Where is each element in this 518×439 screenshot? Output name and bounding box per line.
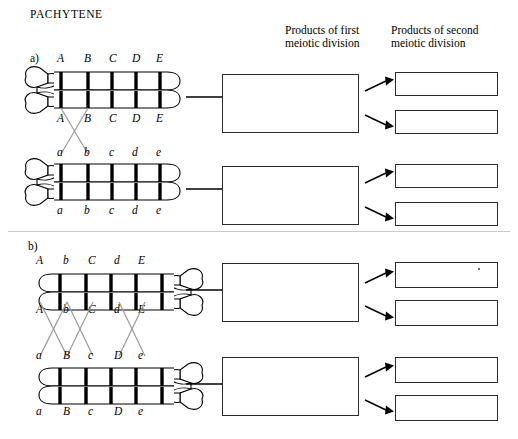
column-header-second-division: Products of second meiotic division	[391, 24, 479, 50]
gene-label: c	[109, 146, 114, 158]
arrow-b-second-4	[365, 397, 395, 415]
second-division-box-a-1[interactable]	[395, 72, 498, 96]
column-header-first-division: Products of first meiotic division	[285, 24, 359, 50]
first-division-box-b-1[interactable]	[222, 263, 359, 322]
section-divider	[8, 231, 510, 232]
ink-dot-artifact	[478, 268, 480, 270]
gene-label: c	[88, 405, 93, 417]
gene-label: c	[109, 204, 114, 216]
gene-label: d	[132, 204, 138, 216]
gene-label: b	[84, 146, 90, 158]
gene-label: a	[36, 349, 42, 361]
gene-label-row-a3: a b c d e	[24, 148, 204, 162]
diagram-canvas: PACHYTENE Products of first meiotic divi…	[0, 0, 518, 439]
first-division-box-a-1[interactable]	[222, 74, 359, 133]
arrow-b-second-2	[365, 303, 395, 321]
first-division-box-b-2[interactable]	[222, 357, 359, 416]
gene-label: D	[132, 52, 140, 64]
arrow-a-second-1	[365, 76, 395, 94]
gene-label: a	[57, 146, 63, 158]
gene-label: c	[88, 349, 93, 361]
second-division-box-a-3[interactable]	[395, 164, 498, 188]
second-division-box-b-1[interactable]	[395, 262, 498, 288]
gene-label: B	[63, 349, 70, 361]
gene-label: E	[138, 254, 145, 266]
arrow-a-second-4	[365, 204, 395, 222]
second-division-box-b-4[interactable]	[395, 395, 498, 421]
arrow-a-second-2	[365, 112, 395, 130]
gene-label-row-a4: a b c d e	[24, 204, 204, 218]
gene-label: a	[57, 204, 63, 216]
second-division-box-b-3[interactable]	[395, 357, 498, 383]
gene-label: C	[109, 52, 117, 64]
arrow-a-second-3	[365, 168, 395, 186]
gene-label-row-b4: a B c D e	[24, 405, 204, 419]
gene-label: D	[114, 405, 122, 417]
gene-label: D	[114, 349, 122, 361]
second-division-box-b-2[interactable]	[395, 300, 498, 326]
gene-label-row-a1: A B C D E	[24, 62, 204, 76]
gene-label-row-b3: a B c D e	[24, 349, 204, 363]
gene-label: e	[156, 146, 161, 158]
gene-label: B	[63, 405, 70, 417]
arrow-b-second-3	[365, 362, 395, 380]
gene-label: d	[114, 254, 120, 266]
second-division-box-a-2[interactable]	[395, 110, 498, 134]
gene-label: E	[156, 52, 163, 64]
gene-label: A	[57, 52, 64, 64]
arrow-b-second-1	[365, 268, 395, 286]
gene-label: d	[132, 146, 138, 158]
first-division-box-a-2[interactable]	[222, 166, 359, 225]
gene-label: A	[36, 254, 43, 266]
part-label-b: b)	[28, 240, 38, 252]
gene-label: e	[156, 204, 161, 216]
gene-label: B	[84, 52, 91, 64]
gene-label: C	[88, 254, 96, 266]
gene-label-row-b1: A b C d E	[24, 254, 204, 268]
gene-label: b	[63, 254, 69, 266]
gene-label: e	[138, 349, 143, 361]
second-division-box-a-4[interactable]	[395, 202, 498, 226]
gene-label: e	[138, 405, 143, 417]
gene-label: b	[84, 204, 90, 216]
gene-label: a	[36, 405, 42, 417]
page-title: PACHYTENE	[30, 8, 103, 20]
